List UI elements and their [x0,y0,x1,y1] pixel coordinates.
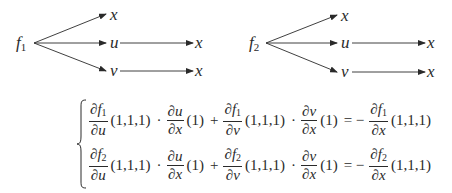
root-sub: 1 [21,41,27,53]
tree2-node-x: x [341,7,349,24]
den: ∂u [90,122,107,139]
num: ∂f [90,146,102,162]
den: ∂v [225,122,241,139]
tree1-node-v: v [110,62,118,79]
num: ∂u [167,148,184,166]
num: ∂v [301,103,317,121]
num: ∂f [224,146,236,162]
den: ∂x [371,122,387,139]
plus-operator: + [210,112,218,129]
tree2-node-u-child-x: x [427,34,435,51]
frac-df1-dv: ∂f1∂v [223,101,242,139]
tree2-node-u: u [341,34,350,51]
frac-df2-dv: ∂f2∂v [223,146,242,184]
num-sub: 2 [102,152,107,163]
root-sub: 2 [254,41,260,53]
frac-dv-dx: ∂v∂x [301,103,317,138]
equation-row-1: ∂f1∂u (1,1,1) · ∂u∂x (1) + ∂f1∂v (1,1,1)… [88,101,433,139]
tree1-node-v-child-x: x [195,62,203,79]
tree1-node-u: u [110,34,119,51]
equation-row-2: ∂f2∂u (1,1,1) · ∂u∂x (1) + ∂f2∂v (1,1,1)… [88,146,433,184]
args: (1,1,1) [391,112,431,129]
args: (1) [320,112,338,129]
num-sub: 1 [382,107,387,118]
num-sub: 2 [236,152,241,163]
frac-df1-dx: ∂f1∂x [369,101,388,139]
args: (1) [187,157,205,174]
dot-operator: · [291,112,296,129]
tree1-root-label: f1 [16,34,26,56]
plus-operator: + [210,157,218,174]
den: ∂u [90,167,107,184]
args: (1,1,1) [111,157,151,174]
frac-du-dx: ∂u∂x [167,103,184,138]
dependency-tree-arrows [0,0,452,95]
frac-df1-du: ∂f1∂u [89,101,108,139]
arrow-f2-x [266,15,337,43]
arrow-f1-x [34,14,106,43]
num: ∂f [90,101,102,117]
tree2-node-v-child-x: x [427,63,435,80]
tree2-node-v: v [341,63,349,80]
args: (1) [320,157,338,174]
arrow-f1-v [34,43,106,71]
num: ∂f [370,101,382,117]
args: (1,1,1) [245,112,285,129]
args: (1,1,1) [245,157,285,174]
args: (1,1,1) [391,157,431,174]
num-sub: 1 [102,107,107,118]
args: (1) [187,112,205,129]
arrow-f2-v [266,43,337,72]
equals-minus-operator: = − [344,157,365,174]
left-brace [76,98,88,190]
den: ∂x [301,166,317,183]
num: ∂u [167,103,184,121]
tree2-root-label: f2 [249,34,259,56]
frac-dv-dx: ∂v∂x [301,148,317,183]
dot-operator: · [157,112,162,129]
den: ∂v [225,167,241,184]
equals-minus-operator: = − [344,112,365,129]
dot-operator: · [157,157,162,174]
num: ∂f [224,101,236,117]
num: ∂f [370,146,382,162]
frac-df2-du: ∂f2∂u [89,146,108,184]
den: ∂x [167,121,183,138]
frac-du-dx: ∂u∂x [167,148,184,183]
num-sub: 2 [382,152,387,163]
num-sub: 1 [236,107,241,118]
frac-df2-dx: ∂f2∂x [369,146,388,184]
tree1-node-x: x [110,6,118,23]
den: ∂x [167,166,183,183]
den: ∂x [301,121,317,138]
num: ∂v [301,148,317,166]
dot-operator: · [291,157,296,174]
args: (1,1,1) [111,112,151,129]
tree1-node-u-child-x: x [195,34,203,51]
den: ∂x [371,167,387,184]
equation-system: ∂f1∂u (1,1,1) · ∂u∂x (1) + ∂f1∂v (1,1,1)… [76,98,386,190]
